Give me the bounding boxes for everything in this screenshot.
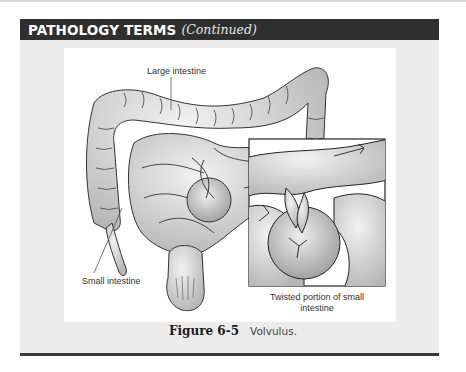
figure-title: Volvulus. bbox=[250, 325, 297, 337]
bottom-divider bbox=[20, 353, 439, 356]
section-header: PATHOLOGY TERMS (Continued) bbox=[20, 19, 439, 40]
label-small-intestine: Small intestine bbox=[82, 276, 141, 286]
label-twisted-portion: Twisted portion of small intestine bbox=[258, 292, 376, 314]
figure-number: Figure 6-5 bbox=[169, 324, 239, 338]
rectum-shape bbox=[167, 246, 204, 311]
inset-box bbox=[244, 138, 394, 288]
section-title: PATHOLOGY TERMS bbox=[28, 22, 176, 38]
page-top-edge bbox=[0, 0, 466, 2]
section-subtitle: (Continued) bbox=[181, 22, 256, 37]
figure-caption: Figure 6-5 Volvulus. bbox=[0, 324, 466, 338]
label-large-intestine: Large intestine bbox=[147, 66, 206, 76]
